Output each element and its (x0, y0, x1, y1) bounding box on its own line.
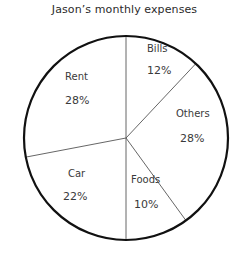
slice-value-others: 28% (180, 133, 204, 145)
slice-value-car: 22% (63, 191, 87, 203)
slice-label-foods: Foods (131, 174, 160, 186)
slice-value-bills: 12% (147, 65, 171, 77)
pie-chart: Jason’s monthly expenses Bills 12% Other… (0, 0, 249, 254)
slice-value-rent: 28% (65, 95, 89, 107)
slice-label-bills: Bills (147, 43, 167, 55)
slice-label-others: Others (176, 108, 210, 120)
slice-label-rent: Rent (65, 71, 88, 83)
pie-chart-graphic (0, 0, 249, 254)
slice-label-car: Car (68, 168, 85, 180)
slice-value-foods: 10% (134, 199, 158, 211)
